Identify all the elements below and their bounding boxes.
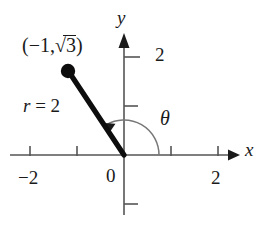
radical-overbar [63, 35, 76, 36]
y-axis-arrowhead [119, 33, 130, 48]
x-axis-label: x [245, 140, 253, 159]
theta-label: θ [160, 108, 170, 128]
coordinate-open: (−1, [22, 34, 55, 56]
radical-sign: √ [55, 34, 66, 56]
radicand: 3 [66, 34, 76, 56]
x-axis-arrowhead [228, 150, 240, 161]
polar-coordinate-diagram: y x 2 −2 2 0 θ r = 2 (−1,√3) [0, 0, 265, 230]
origin-label: 0 [106, 166, 116, 185]
x-tick-label-neg2: −2 [18, 168, 38, 187]
plotted-point [61, 64, 75, 78]
x-tick-label-2: 2 [211, 168, 221, 187]
point-coordinate-label: (−1,√3) [22, 34, 83, 55]
radius-label: r = 2 [23, 96, 60, 115]
coordinate-close: ) [76, 34, 83, 56]
radius-equation: = 2 [30, 95, 60, 116]
y-tick-label-2: 2 [155, 45, 165, 64]
radius-segment [69, 72, 124, 155]
y-axis-label: y [117, 8, 125, 27]
square-root-icon: √3 [55, 34, 76, 55]
